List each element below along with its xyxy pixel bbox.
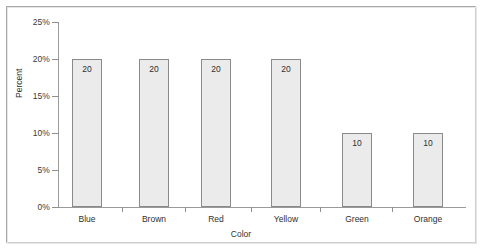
y-axis-tick-label: 25%	[2, 17, 50, 27]
y-axis-tick-label-wrap: 25%	[0, 17, 50, 27]
y-axis-tick-label: 20%	[2, 54, 50, 64]
x-axis-category-label: Red	[176, 214, 256, 224]
y-axis-tick-label-wrap: 15%	[0, 91, 50, 101]
bar-value-label: 20	[202, 64, 230, 74]
bar[interactable]: 20	[271, 59, 301, 207]
y-axis-tick	[52, 133, 59, 134]
x-axis-category-label: Green	[317, 214, 397, 224]
bar-value-label: 10	[414, 138, 442, 148]
y-axis-tick	[52, 207, 59, 208]
y-axis-tick-label: 0%	[2, 202, 50, 212]
y-axis-tick	[52, 96, 59, 97]
bar-value-label: 20	[73, 64, 101, 74]
y-axis-tick-label: 10%	[2, 128, 50, 138]
x-axis-line	[58, 207, 466, 208]
x-axis-tick	[392, 207, 393, 212]
bar[interactable]: 20	[139, 59, 169, 207]
plot-area: 0%5%10%15%20%25% 202020201010 BlueBrownR…	[0, 0, 482, 250]
x-axis-tick	[122, 207, 123, 212]
x-axis-title: Color	[0, 229, 482, 239]
x-axis-tick	[185, 207, 186, 212]
y-axis-tick	[52, 59, 59, 60]
bar-value-label: 10	[343, 138, 371, 148]
x-axis-category-label: Yellow	[246, 214, 326, 224]
x-axis-tick	[251, 207, 252, 212]
bar-value-label: 20	[272, 64, 300, 74]
y-axis-tick-label: 5%	[2, 165, 50, 175]
bar[interactable]: 20	[72, 59, 102, 207]
x-axis-tick	[320, 207, 321, 212]
bar[interactable]: 20	[201, 59, 231, 207]
y-axis-tick-label: 15%	[2, 91, 50, 101]
bar-value-label: 20	[140, 64, 168, 74]
y-axis-title: Percent	[14, 69, 24, 98]
y-axis-tick-label-wrap: 10%	[0, 128, 50, 138]
y-axis-tick	[52, 170, 59, 171]
bar[interactable]: 10	[342, 133, 372, 207]
y-axis-tick-label-wrap: 5%	[0, 165, 50, 175]
bar[interactable]: 10	[413, 133, 443, 207]
y-axis-line	[58, 22, 59, 208]
y-axis-tick	[52, 22, 59, 23]
y-axis-tick-label-wrap: 20%	[0, 54, 50, 64]
x-axis-category-label: Orange	[388, 214, 468, 224]
y-axis-tick-label-wrap: 0%	[0, 202, 50, 212]
bar-chart-figure: 0%5%10%15%20%25% 202020201010 BlueBrownR…	[0, 0, 482, 250]
